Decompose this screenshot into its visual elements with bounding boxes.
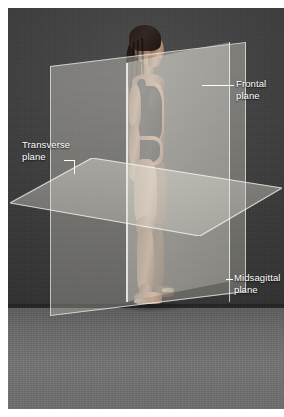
anatomical-planes-figure: Frontal plane Midsagittal plane Transver… bbox=[0, 0, 284, 417]
human-subject bbox=[104, 16, 196, 401]
transverse-plane-label: Transverse plane bbox=[22, 139, 70, 162]
photograph: Frontal plane Midsagittal plane Transver… bbox=[8, 8, 284, 409]
toes bbox=[134, 299, 152, 304]
transverse-leader-vertical bbox=[74, 160, 75, 174]
far-toes bbox=[162, 288, 174, 292]
calf-highlight bbox=[135, 232, 143, 266]
chin bbox=[148, 56, 161, 67]
midsagittal-leader-line bbox=[226, 279, 233, 280]
midsagittal-plane-label: Midsagittal plane bbox=[234, 272, 281, 295]
chest-highlight bbox=[149, 90, 161, 110]
frontal-plane-label: Frontal plane bbox=[236, 78, 266, 101]
frontal-leader-line bbox=[202, 85, 234, 86]
